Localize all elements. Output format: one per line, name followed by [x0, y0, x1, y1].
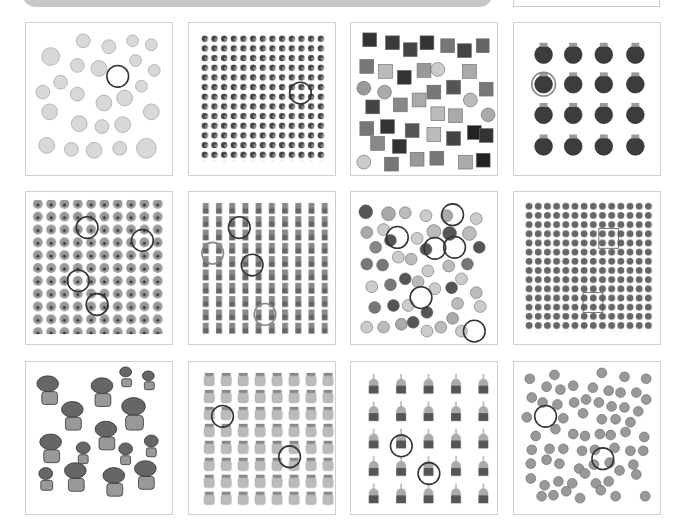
plant-pot-icon-grid [189, 192, 335, 344]
bear-icon-field [26, 192, 172, 344]
tile-cupcake-mix[interactable] [350, 191, 498, 345]
tile-houseplant[interactable] [25, 361, 173, 515]
birthday-cupcake-icon-grid [351, 362, 497, 514]
dot-icon-grid [514, 192, 660, 344]
tile-plant-pot[interactable] [188, 191, 336, 345]
tile-strawberry[interactable] [513, 22, 661, 176]
cupcake-mix-icon-field [351, 192, 497, 344]
strawberry-icon-grid [514, 23, 660, 175]
top-toolbar-bar [22, 0, 493, 7]
tile-bear[interactable] [25, 191, 173, 345]
tile-beetle[interactable] [188, 22, 336, 176]
tile-jar[interactable] [188, 361, 336, 515]
beetle-icon-grid [189, 23, 335, 175]
tile-potion[interactable] [350, 22, 498, 176]
jar-icon-grid [189, 362, 335, 514]
unicorn-icon-field [26, 23, 172, 175]
potion-icon-field [351, 23, 497, 175]
top-right-panel [513, 0, 660, 7]
tile-smiley[interactable] [513, 361, 661, 515]
houseplant-icon-field [26, 362, 172, 514]
tile-dot[interactable] [513, 191, 661, 345]
tile-birthday-cupcake[interactable] [350, 361, 498, 515]
smiley-icon-field [514, 362, 660, 514]
tile-unicorn[interactable]: unicorn heads [25, 22, 173, 176]
